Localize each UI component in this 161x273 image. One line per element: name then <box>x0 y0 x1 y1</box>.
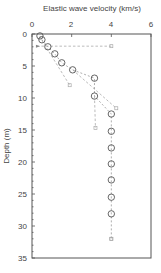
chart-title: Elastic wave velocity (km/s) <box>43 4 141 13</box>
profile-2-marker <box>115 107 118 110</box>
profile-1-marker <box>59 60 65 66</box>
x-tick-label-4: 4 <box>109 20 114 29</box>
plot-frame <box>32 34 151 258</box>
y-tick-label-25: 25 <box>18 190 27 199</box>
y-tick-label-0: 0 <box>23 30 28 39</box>
y-axis-label: Depth (m) <box>2 128 11 164</box>
y-tick-label-5: 5 <box>23 62 28 71</box>
profile-1-marker <box>52 51 58 57</box>
x-tick-label-6: 6 <box>149 20 154 29</box>
series-profile-1 <box>37 33 115 241</box>
y-tick-label-10: 10 <box>18 94 27 103</box>
x-tick-label-2: 2 <box>69 20 74 29</box>
velocity-depth-chart: Elastic wave velocity (km/s) 0 2 4 6 0 5… <box>0 0 161 273</box>
y-minor-ticks <box>32 34 151 258</box>
y-tick-label-35: 35 <box>18 254 27 263</box>
series-profile-2 <box>36 40 118 240</box>
y-tick-label-20: 20 <box>18 158 27 167</box>
y-tick-label-30: 30 <box>18 222 27 231</box>
y-tick-label-15: 15 <box>18 126 27 135</box>
x-tick-label-0: 0 <box>30 20 35 29</box>
